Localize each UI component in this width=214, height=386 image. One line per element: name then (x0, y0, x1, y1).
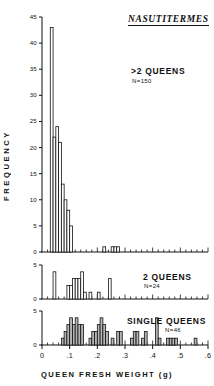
bar (81, 272, 84, 299)
panel-sample-size-two-queens: N=24 (144, 283, 160, 289)
bar (95, 331, 98, 345)
panel-two-queens-bars (53, 272, 111, 299)
bar (75, 318, 78, 345)
bar (64, 331, 67, 345)
bar (70, 318, 73, 345)
bar (133, 331, 136, 345)
y-tick-label-more-than-two-queens-0: 0 (0, 248, 37, 255)
bar (78, 279, 81, 299)
y-tick-label-single-queens-0: 0 (0, 341, 37, 348)
y-tick-label-single-queens-5: 5 (0, 307, 37, 314)
bar (89, 338, 92, 345)
bar (158, 338, 161, 345)
bar (50, 27, 53, 252)
panel-annotation-more-than-two-queens: >2 QUEENS (131, 66, 185, 76)
bar (167, 338, 170, 345)
bar (72, 325, 75, 345)
bar (108, 279, 111, 299)
bar (103, 247, 106, 252)
x-axis-label: QUEEN FRESH WEIGHT (g) (0, 370, 214, 379)
bar (111, 338, 114, 345)
bar (70, 226, 73, 252)
figure-canvas (0, 0, 214, 386)
bar (114, 247, 117, 252)
y-tick-label-more-than-two-queens-40: 40 (0, 39, 37, 46)
bar (119, 331, 122, 345)
y-tick-label-more-than-two-queens-20: 20 (0, 144, 37, 151)
bar (142, 338, 145, 345)
bar (64, 200, 67, 252)
bar (84, 292, 87, 299)
y-tick-label-more-than-two-queens-25: 25 (0, 117, 37, 124)
y-tick-label-two-queens-5: 5 (0, 261, 37, 268)
bar (100, 318, 103, 345)
bar (131, 338, 134, 345)
y-tick-label-more-than-two-queens-15: 15 (0, 170, 37, 177)
bar (111, 247, 114, 252)
bar (144, 331, 147, 345)
bar (81, 325, 84, 345)
y-tick-label-more-than-two-queens-45: 45 (0, 13, 37, 20)
bar (117, 331, 120, 345)
bar (172, 338, 175, 345)
x-tick-label-6: .6 (188, 351, 214, 360)
bar (117, 247, 120, 252)
panel-annotation-single-queens: SINGLE QUEENS (127, 316, 206, 326)
bar (53, 272, 56, 299)
y-tick-label-more-than-two-queens-5: 5 (0, 222, 37, 229)
bar (61, 338, 64, 345)
y-axis-label: FREQUENCY (2, 130, 16, 201)
panel-sample-size-more-than-two-queens: N=150 (132, 78, 152, 84)
bar (67, 325, 70, 345)
y-tick-label-more-than-two-queens-35: 35 (0, 65, 37, 72)
bar (89, 292, 92, 299)
bar (97, 292, 100, 299)
bar (136, 331, 139, 345)
bar (56, 127, 59, 252)
y-tick-label-two-queens-0: 0 (0, 295, 37, 302)
bar (67, 210, 70, 252)
bar (103, 325, 106, 345)
bar (78, 325, 81, 345)
bar (61, 184, 64, 252)
panel-sample-size-single-queens: N=46 (165, 327, 181, 333)
bar (53, 137, 56, 252)
bar (70, 285, 73, 299)
bar (72, 279, 75, 299)
bar (67, 285, 70, 299)
bar (169, 338, 172, 345)
bar (59, 142, 62, 252)
figure-nasutitermes-histograms: NASUTITERMES >2 QUEENS N=150 2 QUEENS N=… (0, 0, 214, 386)
bar (175, 338, 178, 345)
bar (92, 331, 95, 345)
y-tick-label-more-than-two-queens-30: 30 (0, 91, 37, 98)
y-tick-label-more-than-two-queens-10: 10 (0, 196, 37, 203)
figure-title: NASUTITERMES (128, 8, 209, 26)
bar (97, 325, 100, 345)
panel-more-than-two-queens-bars (50, 27, 119, 252)
panel-annotation-two-queens: 2 QUEENS (143, 272, 192, 282)
bar (106, 331, 109, 345)
bar (75, 279, 78, 299)
bar (194, 338, 197, 345)
